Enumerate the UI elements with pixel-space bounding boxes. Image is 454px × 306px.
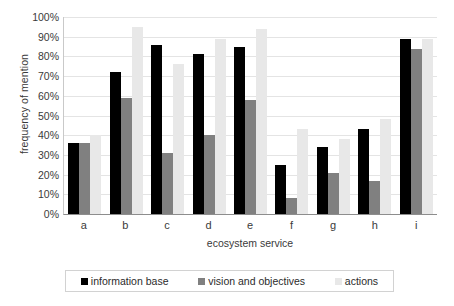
x-axis-tick-labels: abcdefghi [63, 219, 437, 231]
bar-group [313, 17, 354, 214]
bar-group [147, 17, 188, 214]
y-axis-tick-label: 10% [38, 188, 59, 200]
legend-label: actions [345, 275, 378, 287]
bar [275, 165, 286, 214]
bar [411, 49, 422, 214]
x-axis-tick-label: f [271, 219, 313, 231]
x-axis-tick-label: i [396, 219, 438, 231]
bar [286, 198, 297, 214]
x-axis-tick-label: d [188, 219, 230, 231]
bar-group [271, 17, 312, 214]
bar-group [354, 17, 395, 214]
bar-groups [64, 17, 437, 214]
bar [400, 39, 411, 214]
bar [193, 54, 204, 214]
x-axis-tick-label: e [229, 219, 271, 231]
legend-label: vision and objectives [208, 275, 305, 287]
bar [162, 153, 173, 214]
bar [68, 143, 79, 214]
bar [369, 181, 380, 214]
x-axis-title: ecosystem service [63, 237, 437, 249]
bar [328, 173, 339, 214]
bar [215, 39, 226, 214]
legend-item[interactable]: actions [335, 275, 378, 287]
chart-legend: information basevision and objectivesact… [65, 270, 394, 292]
y-axis-tick-label: 30% [38, 149, 59, 161]
y-axis-tick-label: 100% [32, 11, 59, 23]
bar [110, 72, 121, 214]
legend-item[interactable]: information base [81, 275, 169, 287]
y-axis-tick-label: 20% [38, 169, 59, 181]
bar [90, 135, 101, 214]
bar-group [105, 17, 146, 214]
bar [256, 29, 267, 214]
bar [297, 129, 308, 214]
gridline: 0% [64, 214, 437, 215]
y-axis-title: frequency of mention [18, 24, 30, 184]
bar-group [188, 17, 229, 214]
y-axis-tick-label: 80% [38, 50, 59, 62]
bar [121, 98, 132, 214]
legend-label: information base [91, 275, 169, 287]
legend-swatch-icon [198, 278, 205, 285]
legend-swatch-icon [335, 278, 342, 285]
bar [422, 39, 433, 214]
bar-group [64, 17, 105, 214]
bar [132, 27, 143, 214]
y-axis-tick-label: 40% [38, 129, 59, 141]
bar [339, 139, 350, 214]
y-axis-tick-label: 50% [38, 110, 59, 122]
bar [317, 147, 328, 214]
bar [173, 64, 184, 214]
y-axis-tick-label: 0% [44, 208, 59, 220]
bar-group [396, 17, 437, 214]
legend-swatch-icon [81, 278, 88, 285]
bar [204, 135, 215, 214]
x-axis-tick-label: c [146, 219, 188, 231]
bar [79, 143, 90, 214]
x-axis-tick-label: g [312, 219, 354, 231]
x-axis-tick-label: h [354, 219, 396, 231]
bar [358, 129, 369, 214]
y-axis-tick-label: 90% [38, 31, 59, 43]
x-axis-tick-label: a [63, 219, 105, 231]
bar [234, 47, 245, 214]
legend-item[interactable]: vision and objectives [198, 275, 305, 287]
plot-area: 100%90%80%70%60%50%40%30%20%10%0% [63, 17, 437, 215]
bar [151, 45, 162, 214]
bar [245, 100, 256, 214]
bar-group [230, 17, 271, 214]
x-axis-tick-label: b [105, 219, 147, 231]
y-axis-tick-label: 70% [38, 70, 59, 82]
y-axis-tick-label: 60% [38, 90, 59, 102]
bar [380, 119, 391, 214]
bar-chart: frequency of mention 100%90%80%70%60%50%… [0, 0, 454, 306]
